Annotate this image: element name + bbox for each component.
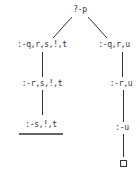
right-node-2: :-r,u <box>110 79 133 89</box>
empty-clause-box-icon <box>120 160 127 167</box>
right-node-1: :-q,r,u <box>98 40 130 50</box>
left-node-3: :-s,!,t <box>25 120 57 130</box>
left-node-2: :-r,s,!,t <box>22 79 63 89</box>
root-node: ?-p <box>73 5 87 15</box>
edge-root-right <box>88 17 107 38</box>
right-node-3: :-u <box>115 123 129 133</box>
edge-root-left <box>53 17 72 38</box>
left-node-1: :-q,r,s,!,t <box>17 40 67 50</box>
